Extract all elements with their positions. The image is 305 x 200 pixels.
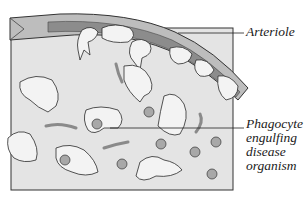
phagocyte-label-line-3: disease (246, 145, 303, 159)
phagocyte-label-line-1: Phagocyte (246, 117, 303, 131)
diagram-stage: Arteriole Phagocyte engulfing disease or… (0, 0, 305, 200)
arteriole-label: Arteriole (246, 25, 295, 39)
phagocyte-label-line-2: engulfing (246, 131, 303, 145)
phagocyte-label: Phagocyte engulfing disease organism (246, 117, 303, 173)
phagocyte-label-line-4: organism (246, 159, 303, 173)
